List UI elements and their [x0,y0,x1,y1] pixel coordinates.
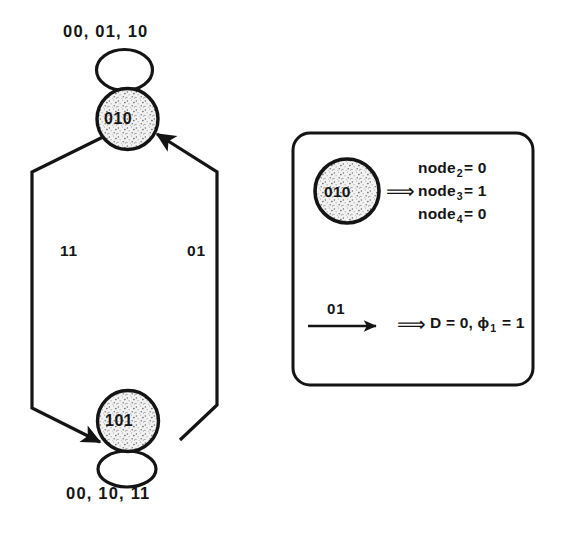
legend-edge-result-suffix: = 1 [497,314,524,331]
legend-edge-result: D = 0, ϕ1 = 1 [430,314,524,332]
legend-assignment-node3: node3= 1 [418,182,486,200]
transition-010-to-101 [32,137,103,442]
legend-assignment-node2: node2= 0 [418,159,486,177]
transition-label-11: 11 [60,242,78,260]
self-loop-label-101: 00, 10, 11 [66,484,151,503]
legend-assignment-node4: node4= 0 [418,205,486,223]
legend-assignment-node4-signal: node [418,205,456,222]
state-label-101: 101 [105,412,133,430]
state-diagram-figure: 00, 01, 10 00, 10, 11 010 101 11 01 010 … [0,0,563,539]
legend-edge-result-subscript: 1 [489,322,497,334]
legend-assignment-node4-subscript: 4 [456,213,464,225]
self-loop-label-010: 00, 01, 10 [63,22,148,41]
self-loop-010 [97,50,153,91]
legend-edge-result-prefix: D = 0, [430,314,478,331]
phi-symbol: ϕ [478,314,490,331]
legend-assignment-node2-signal: node [418,159,456,176]
legend-assignment-node3-signal: node [418,182,456,199]
legend-assignment-node2-value: = 0 [464,159,487,176]
legend-assignment-node2-subscript: 2 [456,167,464,179]
transition-101-to-010 [157,134,217,440]
legend-assignment-node4-value: = 0 [464,205,487,222]
self-loop-101 [98,451,156,487]
legend-edge-implies-icon: ⟹ [397,314,426,334]
diagram-canvas [0,0,563,539]
legend-assignment-node3-value: = 1 [464,182,487,199]
legend-assignment-node3-subscript: 3 [456,190,464,202]
legend-state-label-010: 010 [324,183,351,201]
transition-label-01: 01 [187,242,206,260]
legend-arrow-label: 01 [327,300,346,317]
legend-implies-icon: ⟹ [386,181,415,201]
state-label-010: 010 [104,110,132,128]
